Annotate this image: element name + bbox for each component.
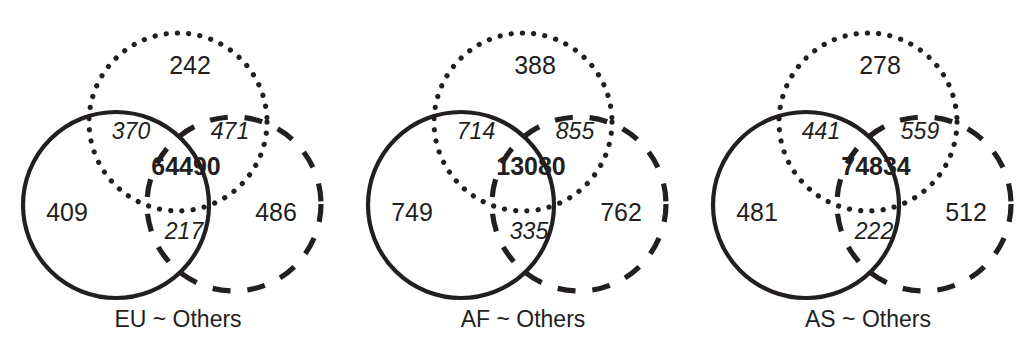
value-solid-dashed: 217: [164, 218, 205, 244]
value-dotted-only: 278: [859, 51, 901, 79]
venn-panel-3-svg: 278 481 512 441 559 222 74834 AS ~ Other…: [690, 0, 1034, 351]
value-all-three: 13080: [496, 152, 566, 180]
value-all-three: 74834: [841, 152, 911, 180]
value-solid-dotted: 441: [802, 118, 840, 144]
value-solid-dashed: 335: [510, 218, 549, 244]
venn-panel-2: 388 749 762 714 855 335 13080 AF ~ Other…: [345, 0, 690, 351]
value-solid-dotted: 714: [457, 118, 495, 144]
value-solid-only: 481: [736, 198, 778, 226]
venn-diagram-figure: 242 409 486 370 471 217 64490 EU ~ Other…: [0, 0, 1034, 351]
value-solid-dotted: 370: [112, 118, 151, 144]
value-dotted-dashed: 471: [211, 118, 249, 144]
value-solid-dashed: 222: [854, 218, 894, 244]
value-dashed-only: 762: [600, 198, 642, 226]
value-dotted-only: 242: [169, 51, 211, 79]
value-dashed-only: 512: [945, 198, 987, 226]
venn-panel-1-svg: 242 409 486 370 471 217 64490 EU ~ Other…: [0, 0, 345, 351]
venn-panel-2-svg: 388 749 762 714 855 335 13080 AF ~ Other…: [345, 0, 690, 351]
value-solid-only: 749: [391, 198, 433, 226]
panel-caption: AS ~ Others: [805, 306, 931, 332]
value-solid-only: 409: [46, 198, 88, 226]
value-dotted-dashed: 559: [901, 118, 940, 144]
venn-panel-3: 278 481 512 441 559 222 74834 AS ~ Other…: [690, 0, 1034, 351]
value-dashed-only: 486: [255, 198, 297, 226]
value-all-three: 64490: [151, 152, 221, 180]
panel-caption: EU ~ Others: [114, 306, 241, 332]
value-dotted-dashed: 855: [556, 118, 595, 144]
venn-panel-1: 242 409 486 370 471 217 64490 EU ~ Other…: [0, 0, 345, 351]
panel-caption: AF ~ Others: [461, 306, 586, 332]
value-dotted-only: 388: [514, 51, 556, 79]
